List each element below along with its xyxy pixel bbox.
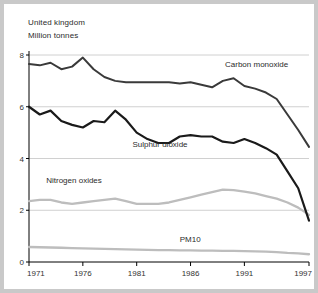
y-tick-label: 4 [20,155,25,164]
x-tick-label: 1986 [182,269,200,278]
series-line [29,58,309,147]
y-tick-label: 6 [20,103,25,112]
x-tick-label: 1997 [294,269,312,278]
series-label: Sulphur dioxide [132,140,188,149]
y-tick-label: 8 [20,51,25,60]
series-line [29,190,309,215]
series-label: Carbon monoxide [225,60,289,69]
series-label: PM10 [180,235,201,244]
series-label: Nitrogen oxides [46,176,102,185]
line-chart: 02468197119761981198619911997Carbon mono… [4,4,314,289]
y-tick-label: 0 [20,258,25,267]
series-line [29,247,309,254]
x-tick-label: 1981 [128,269,146,278]
x-tick-label: 1976 [74,269,92,278]
y-tick-label: 2 [20,206,25,215]
x-tick-label: 1971 [27,269,45,278]
chart-panel: United kingdom Million tonnes 0246819711… [4,4,314,289]
x-tick-label: 1991 [235,269,253,278]
